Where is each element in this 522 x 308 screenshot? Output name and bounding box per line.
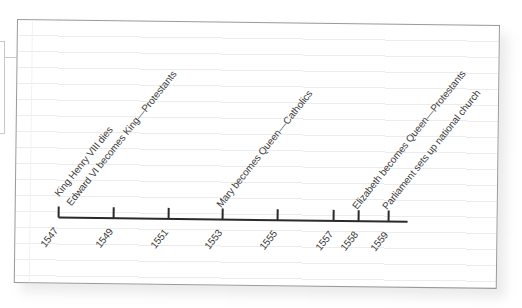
tick-1549 [113,207,115,218]
year-label-1558: 1558 [338,229,360,253]
paper-margin-line [29,20,33,282]
year-label-1559: 1559 [368,230,390,254]
tick-1547 [58,207,60,218]
year-label-1547: 1547 [38,226,60,250]
timeline-axis [59,217,408,223]
tick-1553 [222,209,224,220]
year-label-1555: 1555 [257,228,279,252]
event-edward-vi-king: Edward VI becomes King—Protestants [64,69,179,208]
timeline-figure: 1547 1549 1551 1553 1555 1557 1558 1559 … [0,0,522,308]
year-label-1549: 1549 [93,226,115,250]
tick-1551 [168,208,170,219]
tick-1559 [388,211,390,222]
tick-1555 [277,209,279,220]
year-label-1557: 1557 [313,229,335,253]
year-label-1553: 1553 [202,228,224,252]
event-mary-queen: Mary becomes Queen—Catholics [214,88,314,209]
event-elizabeth-queen: Elizabeth becomes Queen—Protestants [350,68,468,211]
lined-paper: 1547 1549 1551 1553 1555 1557 1558 1559 … [14,19,500,289]
tick-1558 [358,210,360,221]
tick-1557 [333,210,335,221]
side-panel-edge [0,41,5,134]
year-label-1551: 1551 [148,227,170,251]
